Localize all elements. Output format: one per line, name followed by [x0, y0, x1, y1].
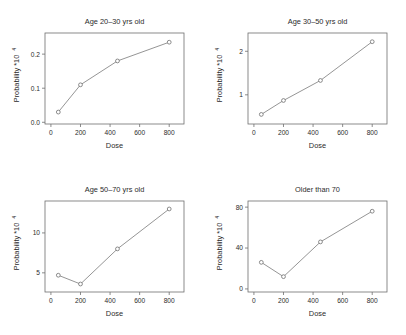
data-point-marker	[56, 273, 60, 277]
data-point-marker	[116, 59, 120, 63]
x-tick-label: 200	[75, 297, 86, 304]
x-axis-title: Dose	[106, 141, 123, 150]
svg-text:Probability *10: Probability *10	[215, 55, 224, 103]
x-axis-title: Dose	[106, 309, 123, 318]
svg-text:Probability *10: Probability *10	[215, 223, 224, 271]
svg-text:Probability *10: Probability *10	[12, 223, 21, 271]
data-point-marker	[282, 275, 286, 279]
panel-title: Older than 70	[295, 185, 340, 194]
series-line	[261, 42, 372, 115]
data-point-marker	[319, 79, 323, 83]
y-tick-label: 40	[236, 244, 244, 251]
x-tick-label: 0	[49, 129, 53, 136]
x-tick-label: 0	[49, 297, 53, 304]
y-axis-exponent: 4	[12, 48, 17, 51]
series-line	[58, 209, 169, 284]
y-axis-title: Probability *104	[12, 216, 21, 271]
data-point-marker	[259, 113, 263, 117]
x-tick-label: 600	[337, 297, 348, 304]
x-axis-title: Dose	[309, 141, 326, 150]
panel-older-than-70: Older than 70020040060080004080DoseProba…	[203, 168, 406, 335]
y-axis-title: Probability *104	[215, 48, 224, 103]
y-axis-exponent: 4	[215, 48, 220, 51]
y-axis-exponent: 4	[215, 216, 220, 219]
data-point-marker	[56, 110, 60, 114]
panel-age-20-30: Age 20–30 yrs old02004006008000.00.10.2D…	[0, 0, 203, 167]
x-tick-label: 800	[367, 129, 378, 136]
x-tick-label: 800	[164, 297, 175, 304]
y-tick-label: 80	[236, 204, 244, 211]
x-tick-label: 400	[105, 297, 116, 304]
x-tick-label: 200	[278, 129, 289, 136]
x-tick-label: 200	[278, 297, 289, 304]
y-tick-label: 0.2	[31, 51, 40, 58]
data-point-marker	[282, 99, 286, 103]
data-point-marker	[79, 83, 83, 87]
series-line	[58, 42, 169, 112]
data-point-marker	[167, 40, 171, 44]
x-axis-title: Dose	[309, 309, 326, 318]
panel-title: Age 20–30 yrs old	[85, 17, 145, 26]
x-tick-label: 0	[252, 297, 256, 304]
x-tick-label: 600	[337, 129, 348, 136]
x-tick-label: 400	[105, 129, 116, 136]
x-tick-label: 600	[134, 129, 145, 136]
x-tick-label: 200	[75, 129, 86, 136]
x-tick-label: 800	[164, 129, 175, 136]
data-point-marker	[370, 209, 374, 213]
y-tick-label: 10	[33, 229, 41, 236]
panel-title: Age 30–50 yrs old	[288, 17, 348, 26]
x-tick-label: 0	[252, 129, 256, 136]
data-point-marker	[370, 40, 374, 44]
data-point-marker	[79, 282, 83, 286]
y-axis-title: Probability *104	[215, 216, 224, 271]
x-tick-label: 400	[308, 297, 319, 304]
panel-title: Age 50–70 yrs old	[85, 185, 145, 194]
x-tick-label: 600	[134, 297, 145, 304]
x-tick-label: 800	[367, 297, 378, 304]
y-tick-label: 1	[239, 91, 243, 98]
data-point-marker	[259, 260, 263, 264]
figure-panel-grid: Age 20–30 yrs old02004006008000.00.10.2D…	[0, 0, 406, 335]
y-tick-label: 5	[36, 269, 40, 276]
y-tick-label: 0.1	[31, 85, 40, 92]
y-tick-label: 0	[239, 285, 243, 292]
y-tick-label: 2	[239, 48, 243, 55]
y-axis-title: Probability *104	[12, 48, 21, 103]
svg-text:Probability *10: Probability *10	[12, 55, 21, 103]
y-tick-label: 0.0	[31, 119, 40, 126]
plot-frame	[45, 33, 184, 124]
data-point-marker	[319, 240, 323, 244]
panel-age-30-50: Age 30–50 yrs old020040060080012DoseProb…	[203, 0, 406, 167]
x-tick-label: 400	[308, 129, 319, 136]
y-axis-exponent: 4	[12, 216, 17, 219]
panel-age-50-70: Age 50–70 yrs old0200400600800510DosePro…	[0, 168, 203, 335]
data-point-marker	[116, 247, 120, 251]
data-point-marker	[167, 207, 171, 211]
series-line	[261, 211, 372, 276]
